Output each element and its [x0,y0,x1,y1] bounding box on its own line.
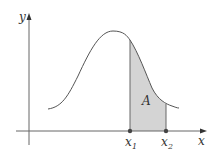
x2-label: x [161,135,168,149]
x2-subscript: 2 [167,142,173,151]
x2-point [164,129,168,133]
bell-curve [48,31,179,109]
x-axis-arrow-icon [200,129,207,134]
region-a-label: A [141,94,151,108]
y-axis-label: y [18,10,26,24]
x1-label: x [125,135,132,149]
shaded-region-a [130,40,166,131]
x1-subscript: 1 [132,142,137,151]
x1-point [128,129,132,133]
x-axis-label: x [198,134,205,148]
bell-curve-diagram: y x x 1 x 2 A [0,0,218,158]
y-axis-arrow-icon [27,13,32,20]
